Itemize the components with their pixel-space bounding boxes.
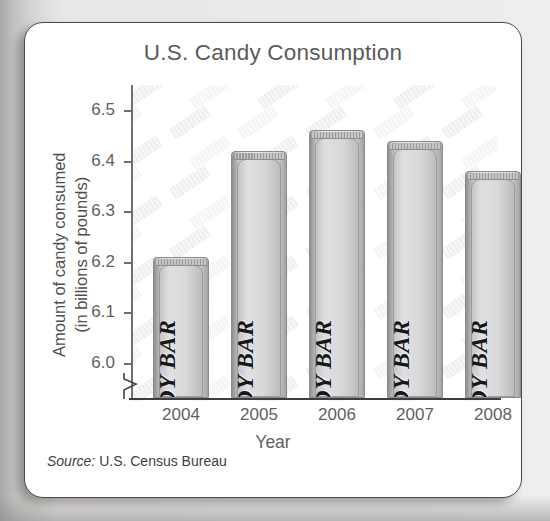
x-axis-line bbox=[129, 398, 501, 400]
candy-wrapper-crimp bbox=[155, 259, 207, 266]
bar: CANDY BAR bbox=[231, 151, 287, 398]
x-tick-label: 2007 bbox=[387, 405, 443, 425]
bar-body: CANDY BAR bbox=[309, 130, 365, 398]
bar: CANDY BAR bbox=[387, 141, 443, 398]
candy-bar-text: CANDY BAR bbox=[388, 320, 415, 398]
y-axis-title: Amount of candy consumed (in billions of… bbox=[39, 83, 95, 403]
bar-body: CANDY BAR bbox=[231, 151, 287, 398]
y-tick-label: 6.2 bbox=[91, 252, 115, 272]
chart-title: U.S. Candy Consumption bbox=[25, 40, 521, 66]
x-axis-title: Year bbox=[25, 432, 521, 453]
candy-bar-text: CANDY BAR bbox=[310, 320, 337, 398]
y-axis-title-line-1: Amount of candy consumed bbox=[50, 153, 68, 358]
bar-body: CANDY BAR bbox=[153, 257, 209, 398]
bar-body: CANDY BAR bbox=[465, 171, 521, 398]
candy-wrapper-crimp bbox=[233, 153, 285, 160]
bar: CANDY BAR bbox=[309, 130, 365, 398]
x-tick-label: 2008 bbox=[465, 405, 521, 425]
source-note: Source: U.S. Census Bureau bbox=[47, 453, 227, 469]
candy-wrapper-crimp bbox=[311, 132, 363, 139]
y-axis-title-line-2: (in billions of pounds) bbox=[72, 177, 90, 333]
y-tick-label: 6.5 bbox=[91, 100, 115, 120]
candy-bar-text: CANDY BAR bbox=[466, 320, 493, 398]
source-value: U.S. Census Bureau bbox=[95, 453, 227, 469]
x-axis-tick-labels: 20042005200620072008 bbox=[131, 405, 503, 429]
source-label: Source: bbox=[47, 453, 95, 469]
candy-wrapper-crimp bbox=[467, 173, 519, 180]
plot-area: 6.06.16.26.36.46.5 CANDY BARCANDY BARCAN… bbox=[131, 85, 497, 401]
chart-card: U.S. Candy Consumption Amount of candy c… bbox=[24, 22, 522, 498]
bar: CANDY BAR bbox=[465, 171, 521, 398]
candy-wrapper-crimp bbox=[389, 143, 441, 150]
bar: CANDY BAR bbox=[153, 257, 209, 398]
candy-bar-text: CANDY BAR bbox=[232, 320, 259, 398]
y-tick-label: 6.1 bbox=[91, 302, 115, 322]
y-tick-label: 6.4 bbox=[91, 151, 115, 171]
y-tick-label: 6.3 bbox=[91, 201, 115, 221]
candy-bar-text: CANDY BAR bbox=[154, 320, 181, 398]
bar-series: CANDY BARCANDY BARCANDY BARCANDY BARCAND… bbox=[131, 85, 497, 398]
x-tick-label: 2005 bbox=[231, 405, 287, 425]
x-tick-label: 2004 bbox=[153, 405, 209, 425]
y-tick-label: 6.0 bbox=[91, 353, 115, 373]
bar-body: CANDY BAR bbox=[387, 141, 443, 398]
x-tick-label: 2006 bbox=[309, 405, 365, 425]
